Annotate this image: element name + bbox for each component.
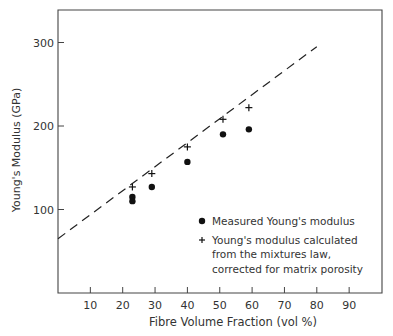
x-axis-label: Fibre Volume Fraction (vol %) xyxy=(149,315,317,329)
y-tick-label: 200 xyxy=(33,120,54,133)
legend-measured-marker xyxy=(199,218,205,224)
legend-calculated-marker xyxy=(199,237,205,243)
x-tick-label: 90 xyxy=(342,299,356,312)
y-axis-label: Young's Modulus (GPa) xyxy=(10,88,23,214)
measured-point xyxy=(149,184,155,190)
x-tick-label: 40 xyxy=(180,299,194,312)
y-tick-label: 300 xyxy=(33,37,54,50)
measured-point xyxy=(184,159,190,165)
x-tick-label: 20 xyxy=(116,299,130,312)
calculated-point xyxy=(129,183,136,190)
dashed-line xyxy=(58,47,317,239)
x-axis-ticks: 102030405060708090 xyxy=(83,287,356,312)
chart: 102030405060708090 100200300 Fibre Volum… xyxy=(0,0,393,336)
measured-point xyxy=(129,198,135,204)
legend: Measured Young's modulus Young's modulus… xyxy=(199,215,363,275)
calculated-point xyxy=(219,116,226,123)
x-tick-label: 60 xyxy=(245,299,259,312)
legend-calculated-label-1: Young's modulus calculated xyxy=(211,234,358,246)
calculated-point xyxy=(245,104,252,111)
x-tick-label: 10 xyxy=(83,299,97,312)
measured-point xyxy=(246,126,252,132)
measured-point xyxy=(220,131,226,137)
legend-measured-label: Measured Young's modulus xyxy=(212,215,355,227)
y-tick-label: 100 xyxy=(33,204,54,217)
x-tick-label: 70 xyxy=(277,299,291,312)
data-points xyxy=(129,104,252,204)
legend-calculated-label-2: from the mixtures law, xyxy=(212,248,331,260)
x-tick-label: 80 xyxy=(310,299,324,312)
legend-calculated-label-3: corrected for matrix porosity xyxy=(212,263,363,275)
x-tick-label: 50 xyxy=(213,299,227,312)
mixtures-law-dashed-line xyxy=(58,47,317,239)
y-axis-ticks: 100200300 xyxy=(33,37,64,217)
x-tick-label: 30 xyxy=(148,299,162,312)
